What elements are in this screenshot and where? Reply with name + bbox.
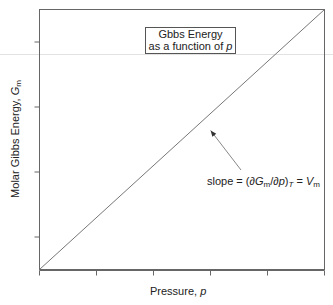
annotation-line-2: as a function of p bbox=[146, 40, 235, 52]
y-axis-label: Molar Gibbs Energy, Gm bbox=[9, 80, 23, 198]
x-axis-var: p bbox=[200, 285, 206, 297]
annotation-line-2-text: as a function of bbox=[149, 40, 227, 52]
slope-text-d: = bbox=[293, 175, 306, 187]
slope-text-b: /∂ bbox=[270, 175, 279, 187]
x-ticks bbox=[40, 271, 325, 276]
x-axis-label-text: Pressure, bbox=[150, 285, 200, 297]
x-axis-label: Pressure, p bbox=[150, 285, 206, 297]
title-annotation-box: Gbbs Energy as a function of p bbox=[145, 27, 236, 54]
slope-G: G bbox=[255, 175, 264, 187]
slope-sub-m2: m bbox=[313, 180, 320, 189]
slope-arrow-head bbox=[211, 131, 217, 137]
slope-arrow bbox=[211, 131, 241, 171]
y-axis-var: G bbox=[9, 87, 21, 96]
annotation-line-1: Gbbs Energy bbox=[146, 28, 235, 40]
slope-text-a: slope = (∂ bbox=[207, 175, 255, 187]
y-axis-label-text: Molar Gibbs Energy, bbox=[9, 95, 21, 198]
slope-annotation: slope = (∂Gm/∂p)T = Vm bbox=[207, 175, 320, 189]
y-axis-sub: m bbox=[14, 80, 23, 87]
y-ticks bbox=[35, 42, 40, 237]
annotation-var-p: p bbox=[226, 40, 232, 52]
